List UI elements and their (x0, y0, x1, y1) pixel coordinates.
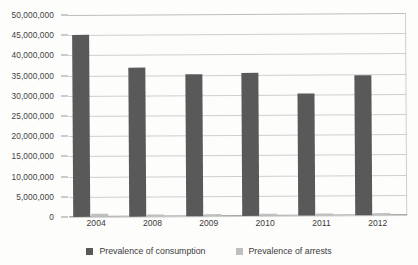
y-axis-tick-label: 45,000,000 (11, 30, 54, 40)
y-axis-tick-label: 35,000,000 (11, 71, 54, 81)
bar-arrests (373, 213, 390, 215)
bar-group (237, 14, 295, 216)
legend-label: Prevalence of arrests (249, 246, 332, 256)
bar-consumption (72, 35, 90, 217)
y-axis-tick-mark (61, 35, 68, 36)
y-axis-tick-mark (61, 196, 68, 197)
bar-consumption (354, 75, 372, 215)
legend-swatch-consumption-icon (86, 248, 93, 255)
bar-consumption (185, 74, 203, 216)
y-axis-tick-label: 40,000,000 (11, 50, 54, 60)
x-axis-tick-label: 2008 (124, 218, 180, 228)
legend-swatch-arrests-icon (236, 248, 243, 255)
y-axis-tick-label: 5,000,000 (16, 192, 54, 202)
x-axis-tick-label: 2010 (237, 218, 293, 228)
x-axis-labels: 200420082009201020112012 (68, 218, 406, 232)
y-axis-tick-label: 25,000,000 (11, 111, 54, 121)
plot-wrapper: 05,000,00010,000,00015,000,00020,000,000… (0, 0, 418, 232)
y-axis-tick-mark (61, 156, 68, 157)
y-axis-tick-mark (61, 95, 68, 96)
legend-item[interactable]: Prevalence of consumption (86, 246, 205, 256)
bar-chart: 05,000,00010,000,00015,000,00020,000,000… (0, 0, 418, 265)
y-axis-tick-label: 50,000,000 (11, 10, 54, 20)
x-axis-tick-label: 2009 (181, 218, 237, 228)
bar-groups (68, 13, 407, 217)
y-axis-tick-label: 30,000,000 (11, 91, 54, 101)
y-axis-tick-mark (61, 176, 68, 177)
y-axis-tick-mark (61, 116, 68, 117)
bar-arrests (260, 213, 277, 216)
bar-consumption (298, 93, 316, 215)
bar-group (293, 13, 351, 215)
y-axis-tick-mark (61, 55, 68, 56)
chart-legend: Prevalence of consumptionPrevalence of a… (0, 243, 418, 259)
y-axis-tick-label: 10,000,000 (11, 172, 54, 182)
bar-group (181, 14, 239, 216)
x-axis-tick-label: 2011 (293, 218, 349, 228)
y-axis-tick-label: 20,000,000 (11, 131, 54, 141)
bar-arrests (204, 214, 221, 216)
y-axis-tick-label: 15,000,000 (11, 151, 54, 161)
bar-arrests (148, 214, 165, 217)
bar-group (350, 13, 408, 215)
plot-area (68, 13, 407, 217)
y-axis-labels: 05,000,00010,000,00015,000,00020,000,000… (0, 0, 62, 232)
bar-consumption (241, 72, 259, 216)
y-axis-tick-mark (61, 136, 68, 137)
bar-group (124, 14, 182, 216)
bar-arrests (91, 214, 108, 217)
bar-consumption (129, 68, 147, 217)
y-axis-tick-label: 0 (49, 212, 54, 222)
bar-group (68, 15, 126, 217)
legend-item[interactable]: Prevalence of arrests (236, 246, 332, 256)
y-axis-tick-mark (61, 15, 68, 16)
x-axis-tick-label: 2012 (350, 218, 406, 228)
x-axis-tick-label: 2004 (68, 218, 124, 228)
bar-arrests (317, 213, 334, 215)
y-axis-tick-mark (61, 217, 68, 218)
legend-label: Prevalence of consumption (99, 246, 205, 256)
y-axis-tick-mark (61, 75, 68, 76)
